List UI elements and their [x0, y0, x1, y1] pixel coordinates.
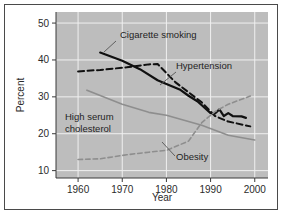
- x-tick-label: 1970: [111, 184, 134, 195]
- figure-container: 1020304050 19601970198019902000 Cigarett…: [0, 0, 282, 214]
- y-tick-label: 50: [38, 18, 50, 29]
- y-tick-label: 10: [38, 165, 50, 176]
- y-tick-label: 30: [38, 91, 50, 102]
- y-axis-ticks: [52, 23, 56, 171]
- annotation-label: Obesity: [176, 151, 208, 162]
- x-axis-title: Year: [152, 192, 173, 203]
- line-chart: 1020304050 19601970198019902000 Cigarett…: [0, 0, 282, 214]
- annotation-label: Cigarette smoking: [120, 29, 197, 40]
- y-tick-label: 20: [38, 128, 50, 139]
- y-axis-title: Percent: [15, 78, 26, 113]
- x-tick-label: 2000: [244, 184, 267, 195]
- y-tick-label: 40: [38, 54, 50, 65]
- annotation-label: cholesterol: [65, 123, 111, 134]
- x-tick-label: 1990: [199, 184, 222, 195]
- y-axis-tick-labels: 1020304050: [38, 18, 50, 177]
- x-axis-ticks: [78, 178, 255, 182]
- annotation-label: Hypertension: [176, 60, 232, 71]
- x-tick-label: 1960: [67, 184, 90, 195]
- annotation-label: High serum: [65, 111, 114, 122]
